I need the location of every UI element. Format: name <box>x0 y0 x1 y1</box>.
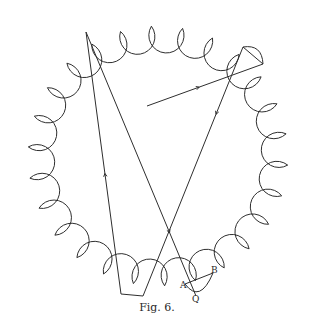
figure-caption: Fig. 6. <box>0 301 314 314</box>
label-A: A <box>179 280 187 290</box>
scalloped-outline <box>28 26 287 286</box>
descending-right <box>143 47 243 296</box>
reflection-1 <box>243 47 263 64</box>
label-B: B <box>211 265 218 275</box>
bottom-chord-1 <box>121 294 143 296</box>
ray-paths <box>86 32 263 296</box>
descending-long <box>86 32 196 296</box>
ascending-left <box>86 32 121 294</box>
scalloped-mirror-figure: A B Q <box>0 0 314 324</box>
